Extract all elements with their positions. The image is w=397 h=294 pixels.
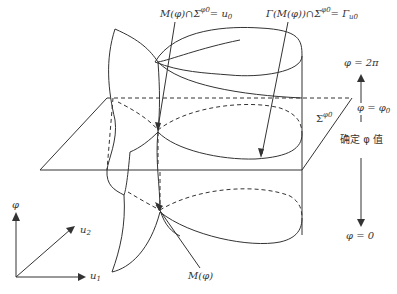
arrowhead-axis-u1 bbox=[78, 273, 86, 281]
label-phi-phi0-sub: 0 bbox=[386, 107, 390, 115]
label-phi-phi0-text: φ = φ bbox=[357, 102, 386, 113]
axis-u2-line bbox=[16, 229, 71, 277]
manifold-hidden-lower bbox=[128, 192, 160, 210]
pointer-gamma bbox=[262, 22, 288, 154]
arrowhead-manifold bbox=[155, 202, 163, 211]
manifold-left-edge bbox=[107, 29, 124, 272]
cylinder-top-ellipse bbox=[155, 27, 302, 75]
label-axis-u1: u1 bbox=[90, 271, 101, 283]
cross-section-front bbox=[158, 132, 302, 159]
cross-section-back bbox=[158, 104, 302, 134]
cylinder-bottom-front bbox=[160, 212, 302, 244]
cylinder-bottom-back bbox=[160, 189, 302, 218]
label-intersection-sub: 0 bbox=[228, 13, 232, 21]
sigma-plane-edge bbox=[40, 98, 352, 170]
label-gamma-eq: = Γ bbox=[331, 8, 350, 19]
manifold-top-edge bbox=[115, 29, 302, 98]
manifold-bottom-curve bbox=[112, 212, 160, 272]
label-intersection-sup: φ0 bbox=[201, 6, 210, 14]
label-intersection-lhs: M(φ)∩Σ bbox=[160, 8, 201, 19]
label-sigma-plane: Σφ0 bbox=[316, 112, 332, 124]
label-axis-u2: u2 bbox=[80, 225, 91, 237]
label-axis-phi: φ bbox=[12, 200, 19, 210]
manifold-hidden-curve bbox=[118, 102, 158, 130]
label-intersection-top: M(φ)∩Σφ0= u0 bbox=[160, 7, 232, 21]
label-phi-phi0: φ = φ0 bbox=[357, 103, 390, 115]
label-axis-u1-sub: 1 bbox=[96, 275, 100, 283]
label-gamma-sup: φ0 bbox=[321, 6, 330, 14]
label-sigma-sup: φ0 bbox=[323, 111, 332, 119]
label-phi-2pi: φ = 2π bbox=[344, 58, 379, 68]
label-gamma: Γ(M(φ))∩Σφ0= Γu0 bbox=[266, 7, 358, 21]
label-intersection-eq: = u bbox=[210, 8, 228, 19]
label-phi-zero: φ = 0 bbox=[346, 231, 374, 241]
diagram-canvas bbox=[0, 0, 397, 294]
label-gamma-lhs: Γ(M(φ))∩Σ bbox=[266, 8, 321, 19]
label-axis-u2-sub: 2 bbox=[86, 229, 90, 237]
arrowhead-phi-down bbox=[357, 219, 365, 227]
label-manifold: M(φ) bbox=[188, 271, 213, 281]
manifold-fold bbox=[124, 132, 158, 195]
arrowhead-phi-up bbox=[357, 74, 365, 82]
label-gamma-sub: u0 bbox=[349, 13, 358, 21]
label-fix-phi: 确定 φ 值 bbox=[340, 135, 383, 145]
arrowhead-axis-phi bbox=[12, 212, 20, 221]
pointer-manifold bbox=[156, 205, 200, 268]
pointer-intersection bbox=[158, 22, 175, 128]
arrowhead-gamma bbox=[258, 148, 264, 158]
